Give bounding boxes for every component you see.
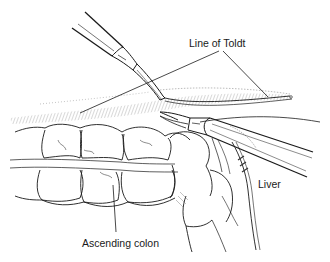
- surgical-illustration: Line of Toldt Liver Ascending colon: [0, 0, 330, 262]
- label-ascending-colon: Ascending colon: [82, 238, 159, 249]
- colon-leader-line: [0, 0, 330, 262]
